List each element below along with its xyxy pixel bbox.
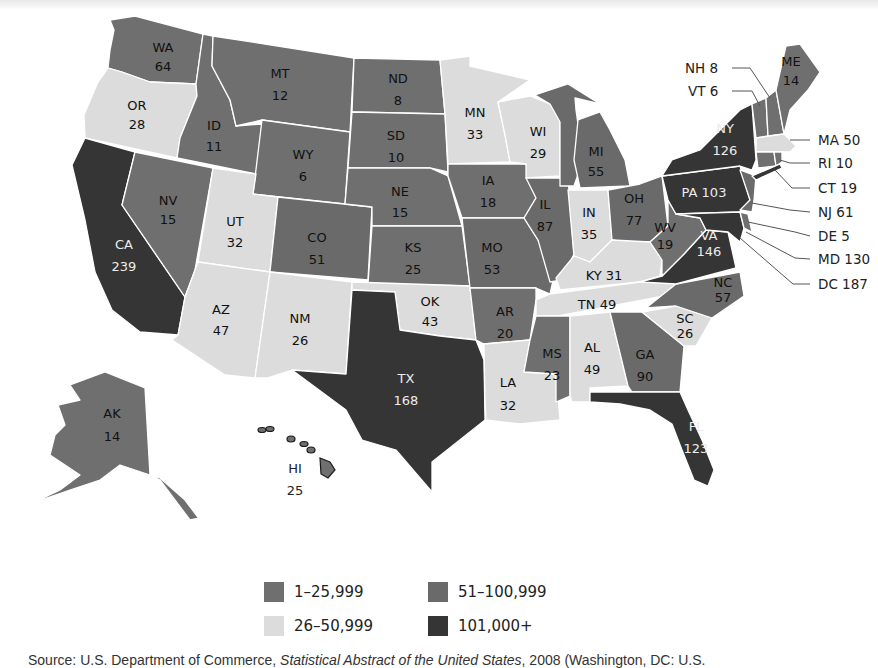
legend-item-1-25999: 1–25,999	[264, 582, 364, 602]
us-choropleth-map: WA64 OR28 CA239 NV15 ID11 MT12 WY6 UT32 …	[0, 0, 878, 560]
svg-text:SC26: SC26	[676, 311, 693, 341]
legend-label: 1–25,999	[294, 583, 364, 601]
state-ak[interactable]	[35, 372, 200, 520]
callout-ri: RI 10	[818, 155, 853, 171]
callout-dc: DC 187	[818, 276, 868, 292]
legend-swatch	[264, 616, 284, 636]
state-ct[interactable]	[756, 152, 776, 168]
callout-nh: NH 8	[685, 60, 718, 76]
state-ma[interactable]	[756, 134, 796, 152]
state-wy[interactable]	[253, 120, 350, 204]
legend: 1–25,999 51–100,999 26–50,999 101,000+	[264, 582, 644, 638]
legend-item-101000-plus: 101,000+	[428, 616, 533, 636]
svg-text:NC57: NC57	[714, 275, 733, 305]
legend-item-51-100999: 51–100,999	[428, 582, 547, 602]
callout-vt: VT 6	[688, 83, 718, 99]
state-ny[interactable]	[662, 104, 756, 176]
legend-swatch	[264, 582, 284, 602]
callout-md: MD 130	[818, 251, 870, 267]
callout-ct: CT 19	[818, 180, 857, 196]
svg-text:PA 103: PA 103	[682, 185, 727, 200]
legend-swatch	[428, 582, 448, 602]
state-fl[interactable]	[590, 392, 714, 486]
svg-text:HI25: HI25	[287, 461, 304, 498]
callout-nj: NJ 61	[818, 204, 854, 220]
state-ks[interactable]	[368, 226, 470, 286]
state-ri[interactable]	[774, 152, 782, 166]
legend-label: 101,000+	[458, 617, 533, 635]
legend-label: 26–50,999	[294, 617, 373, 635]
svg-text:TN 49: TN 49	[577, 297, 616, 312]
legend-item-26-50999: 26–50,999	[264, 616, 373, 636]
label-wa-code: WA	[152, 40, 173, 55]
legend-label: 51–100,999	[458, 583, 547, 601]
callout-de: DE 5	[818, 228, 850, 244]
callout-ma: MA 50	[818, 132, 860, 148]
legend-swatch	[428, 616, 448, 636]
source-note: Source: U.S. Department of Commerce, Sta…	[28, 652, 706, 668]
svg-text:KY 31: KY 31	[586, 268, 623, 283]
